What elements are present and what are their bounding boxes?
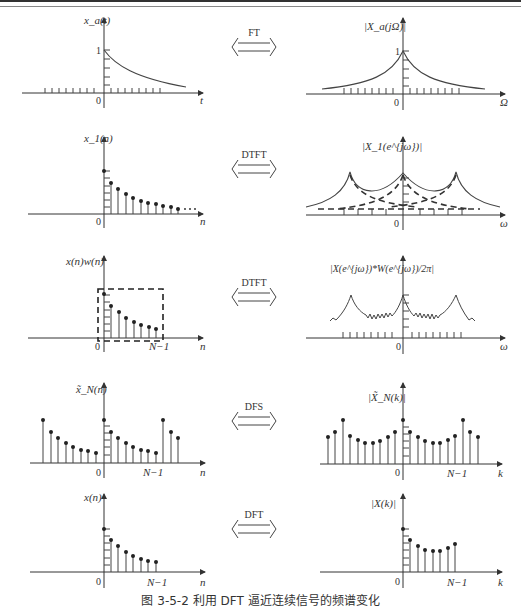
tick-one: 1 bbox=[395, 46, 400, 57]
transform-label: DFT bbox=[245, 509, 264, 520]
dft-spectrum-figure: x_a(t) 1 0 t FT |X_a(jΩ)| 1 0 Ω bbox=[0, 0, 521, 614]
xlabel: k bbox=[498, 467, 504, 479]
n-end-label: N−1 bbox=[142, 466, 163, 478]
row-5-left-finite-x: x(n) 0 N−1 n bbox=[30, 491, 206, 588]
origin-label: 0 bbox=[96, 576, 101, 587]
origin-label: 0 bbox=[96, 467, 101, 478]
ylabel: x(n)w(n) bbox=[65, 255, 104, 268]
ylabel: x_a(t) bbox=[83, 14, 111, 27]
origin-label: 0 bbox=[395, 576, 400, 587]
xlabel: n bbox=[200, 340, 206, 352]
transform-arrow-dfs: DFS bbox=[232, 401, 276, 430]
figure-caption: 图 3-5-2 利用 DFT 逼近连续信号的频谱变化 bbox=[0, 591, 521, 608]
tick-one: 1 bbox=[96, 45, 101, 56]
origin-label: 0 bbox=[395, 467, 400, 478]
xlabel: ω bbox=[500, 340, 508, 352]
origin-label: 0 bbox=[396, 341, 401, 352]
n-end-label: N−1 bbox=[146, 576, 167, 588]
ylabel: x_1(n) bbox=[83, 132, 113, 145]
row-5-right-dft-magnitude: |X(k)| 0 N−1 k bbox=[320, 494, 504, 588]
transform-arrow-dtft-1: DTFT bbox=[232, 149, 276, 178]
n-end-label: N−1 bbox=[148, 340, 169, 352]
ylabel: |X(k)| bbox=[371, 497, 396, 510]
row-1-left-xa-t: x_a(t) 1 0 t bbox=[22, 14, 204, 108]
transform-label: DTFT bbox=[242, 149, 267, 160]
xlabel: t bbox=[200, 94, 204, 106]
row-2-left-x1-n: x_1(n) 0 n bbox=[28, 132, 206, 228]
window-box bbox=[98, 289, 163, 341]
row-3-left-windowed-x: x(n)w(n) 0 N−1 n bbox=[28, 255, 206, 352]
transform-arrow-ft: FT bbox=[232, 27, 276, 56]
xlabel: ω bbox=[500, 217, 508, 229]
xlabel: Ω bbox=[500, 96, 508, 108]
xlabel: n bbox=[200, 466, 206, 478]
row-1-right-Xa-jOmega: |X_a(jΩ)| 1 0 Ω bbox=[306, 18, 508, 110]
row-4-right-dfs-coefficients: |X̃_N(k)| 0 N−1 k bbox=[320, 383, 504, 480]
ylabel: |X(e^{jω})*W(e^{jω})/2π| bbox=[330, 263, 434, 275]
ylabel: |X_1(e^{jω})| bbox=[362, 140, 422, 153]
ylabel: |X_a(jΩ)| bbox=[364, 20, 406, 33]
transform-label: DTFT bbox=[242, 277, 267, 288]
xlabel: n bbox=[200, 576, 206, 588]
ylabel: x̃_N(n) bbox=[75, 383, 107, 396]
transform-label: DFS bbox=[245, 401, 263, 412]
xlabel: n bbox=[200, 215, 206, 227]
origin-label: 0 bbox=[95, 341, 100, 352]
xlabel: k bbox=[498, 576, 504, 588]
row-4-left-periodic-x: x̃_N(n) 0 N−1 n bbox=[30, 383, 206, 478]
origin-label: 0 bbox=[394, 218, 399, 229]
ylabel: |X̃_N(k)| bbox=[368, 391, 406, 404]
row-3-right-convolved-spectrum: |X(e^{jω})*W(e^{jω})/2π| 0 ω bbox=[306, 256, 508, 354]
origin-label: 0 bbox=[394, 97, 399, 108]
transform-label: FT bbox=[248, 27, 260, 38]
transform-arrow-dtft-2: DTFT bbox=[232, 277, 276, 306]
transform-arrow-dft: DFT bbox=[232, 509, 276, 538]
origin-label: 0 bbox=[96, 95, 101, 106]
ylabel: x(n) bbox=[83, 491, 102, 504]
n-end-label: N−1 bbox=[446, 467, 467, 479]
origin-label: 0 bbox=[96, 216, 101, 227]
row-2-right-X1-ejw: |X_1(e^{jω})| 0 ω bbox=[306, 137, 508, 230]
n-end-label: N−1 bbox=[446, 576, 467, 588]
